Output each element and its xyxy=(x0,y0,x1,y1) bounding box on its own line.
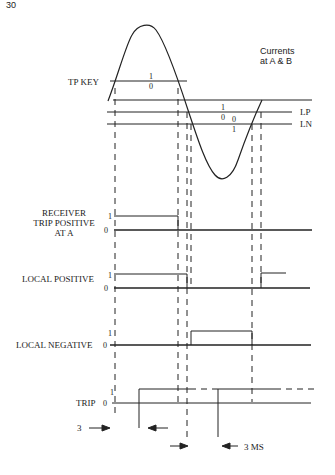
ln-lower: 1 xyxy=(232,125,236,134)
local-negative-high-label: 1 xyxy=(108,329,112,338)
trip-pulse-solid-2 xyxy=(218,389,275,437)
currents-annotation-line2: at A & B xyxy=(260,56,292,66)
receiver-label-line2: TRIP POSITIVE xyxy=(33,218,95,228)
local-negative-low-label: 0 xyxy=(103,341,107,350)
receiver-low-label: 0 xyxy=(104,226,108,235)
local-positive-high-label: 1 xyxy=(108,271,112,280)
arrow-icon-left-interval-out xyxy=(148,425,168,431)
receiver-label-line1: RECEIVER xyxy=(42,208,86,218)
currents-annotation-line1: Currents xyxy=(260,46,295,56)
ln-upper: 0 xyxy=(232,115,236,124)
local-negative-label: LOCAL NEGATIVE xyxy=(16,340,93,350)
left-interval-label: 3 xyxy=(77,423,82,433)
trip-high-label: 1 xyxy=(110,388,114,397)
arrow-icon-right-interval-out xyxy=(222,443,238,449)
lp-label: LP xyxy=(300,107,311,117)
right-interval-label: 3 MS xyxy=(244,442,264,452)
local-positive-pulse-2 xyxy=(261,273,286,288)
ln-label: LN xyxy=(300,119,312,129)
local-positive-label: LOCAL POSITIVE xyxy=(22,274,94,284)
receiver-pulse xyxy=(114,216,178,230)
page-number: 30 xyxy=(6,0,16,10)
receiver-label-line3: AT A xyxy=(54,228,74,238)
local-positive-low-label: 0 xyxy=(104,284,108,293)
local-negative-pulse xyxy=(191,331,252,345)
lp-lower: 0 xyxy=(221,113,225,122)
current-waveform xyxy=(108,25,262,179)
arrow-icon-left-interval-in xyxy=(89,425,110,431)
tp-key-upper: 1 xyxy=(149,72,153,81)
tp-key-label: TP KEY xyxy=(68,77,99,87)
timing-diagram: 30 Currents at A & B TP KEY 1 0 LP 1 0 L… xyxy=(0,0,335,475)
dashed-time-markers xyxy=(115,88,261,438)
tp-key-lower: 0 xyxy=(149,82,153,91)
lp-upper: 1 xyxy=(221,103,225,112)
local-positive-pulse-1 xyxy=(114,274,187,288)
trip-low-label: 0 xyxy=(103,399,107,408)
trip-label: TRIP xyxy=(76,398,96,408)
receiver-high-label: 1 xyxy=(108,212,112,221)
arrow-icon-right-interval-in xyxy=(170,443,188,449)
trip-pulse-solid xyxy=(139,389,190,428)
